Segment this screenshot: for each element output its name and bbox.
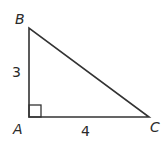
right-triangle-diagram: B A C 3 4 — [0, 0, 164, 143]
side-label-ac: 4 — [81, 123, 90, 139]
vertex-label-b: B — [15, 11, 25, 27]
side-label-ab: 3 — [12, 64, 21, 80]
right-angle-marker — [29, 105, 41, 117]
vertex-label-a: A — [12, 121, 23, 137]
vertex-label-c: C — [150, 119, 160, 135]
triangle-abc — [29, 28, 149, 117]
